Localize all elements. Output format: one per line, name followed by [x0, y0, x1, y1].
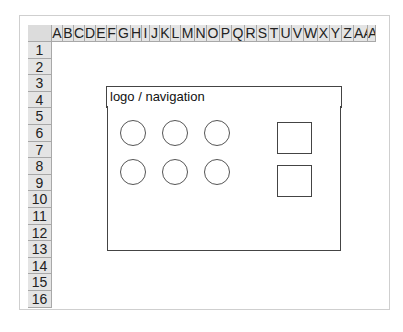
column-header-z[interactable]: Z [342, 25, 354, 42]
row-header-8[interactable]: 8 [28, 158, 52, 175]
column-header-w[interactable]: W [304, 25, 318, 42]
column-header-d[interactable]: D [85, 25, 96, 42]
image-placeholder-circle [204, 120, 230, 146]
column-header-g[interactable]: G [117, 25, 131, 42]
column-header-r[interactable]: R [245, 25, 257, 42]
logo-navigation-label: logo / navigation [110, 89, 205, 104]
row-header-7[interactable]: 7 [28, 142, 52, 159]
column-header-row: ABCDEFGHIJKLMNOPQRSTUVWXYZAAAB [52, 25, 376, 42]
column-header-o[interactable]: O [207, 25, 220, 42]
wireframe-header-bar: logo / navigation [106, 86, 342, 108]
image-placeholder-circle [162, 159, 188, 185]
row-header-4[interactable]: 4 [28, 92, 52, 109]
row-header-column: 12345678910111213141516 [28, 42, 52, 308]
row-header-15[interactable]: 15 [28, 274, 52, 291]
content-placeholder-square [277, 122, 312, 154]
row-header-5[interactable]: 5 [28, 108, 52, 125]
image-placeholder-circle [162, 120, 188, 146]
column-header-u[interactable]: U [280, 25, 292, 42]
column-header-m[interactable]: M [181, 25, 195, 42]
column-header-a[interactable]: A [52, 25, 63, 42]
select-all-corner[interactable] [28, 25, 52, 42]
row-header-12[interactable]: 12 [28, 225, 52, 242]
row-header-1[interactable]: 1 [28, 42, 52, 59]
column-header-k[interactable]: K [160, 25, 171, 42]
column-header-c[interactable]: C [74, 25, 85, 42]
row-header-3[interactable]: 3 [28, 75, 52, 92]
column-header-n[interactable]: N [195, 25, 207, 42]
column-header-t[interactable]: T [269, 25, 280, 42]
row-header-14[interactable]: 14 [28, 258, 52, 275]
row-header-11[interactable]: 11 [28, 208, 52, 225]
column-header-v[interactable]: V [292, 25, 304, 42]
column-header-aa[interactable]: AA [354, 25, 368, 42]
column-header-y[interactable]: Y [330, 25, 342, 42]
column-header-l[interactable]: L [171, 25, 181, 42]
column-header-b[interactable]: B [63, 25, 74, 42]
image-placeholder-circle [204, 159, 230, 185]
column-header-i[interactable]: I [142, 25, 150, 42]
row-header-6[interactable]: 6 [28, 125, 52, 142]
column-header-p[interactable]: P [220, 25, 232, 42]
column-header-e[interactable]: E [96, 25, 107, 42]
column-header-q[interactable]: Q [232, 25, 245, 42]
content-placeholder-square [277, 165, 312, 197]
image-placeholder-circle [120, 120, 146, 146]
row-header-16[interactable]: 16 [28, 291, 52, 308]
row-header-9[interactable]: 9 [28, 175, 52, 192]
row-header-2[interactable]: 2 [28, 59, 52, 76]
row-header-13[interactable]: 13 [28, 241, 52, 258]
column-header-j[interactable]: J [150, 25, 160, 42]
column-header-s[interactable]: S [257, 25, 269, 42]
image-placeholder-circle [120, 159, 146, 185]
column-header-ab[interactable]: AB [368, 25, 376, 42]
column-header-x[interactable]: X [318, 25, 330, 42]
column-header-f[interactable]: F [107, 25, 117, 42]
row-header-10[interactable]: 10 [28, 191, 52, 208]
column-header-h[interactable]: H [131, 25, 142, 42]
